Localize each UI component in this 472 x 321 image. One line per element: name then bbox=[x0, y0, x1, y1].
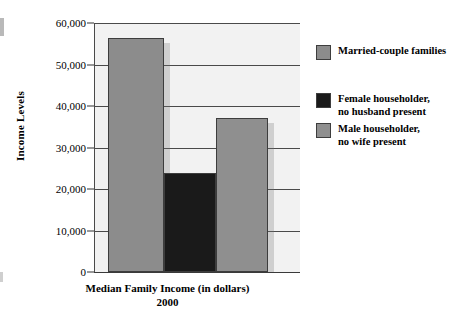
y-tick-label: 30,000 bbox=[56, 142, 86, 154]
legend-label-line2: no husband present bbox=[338, 105, 430, 118]
y-axis-ticks: 60,00050,00040,00030,00020,00010,0000 bbox=[22, 0, 94, 321]
legend-item[interactable]: Male householder,no wife present bbox=[316, 122, 420, 148]
x-axis-caption-line2: 2000 bbox=[60, 296, 275, 310]
legend-label-line2: no wife present bbox=[338, 135, 420, 148]
bar bbox=[216, 118, 268, 272]
legend-item[interactable]: Married-couple families bbox=[316, 44, 446, 60]
y-tick-label: 60,000 bbox=[56, 17, 86, 29]
legend-swatch-icon bbox=[316, 93, 331, 108]
legend-label-line1: Male householder, bbox=[338, 123, 420, 134]
y-tick-mark bbox=[87, 106, 94, 107]
bar bbox=[108, 38, 164, 272]
legend-label: Male householder,no wife present bbox=[338, 122, 420, 148]
gridline bbox=[94, 272, 300, 273]
y-tick-label: 20,000 bbox=[56, 183, 86, 195]
y-tick-label: 40,000 bbox=[56, 100, 86, 112]
y-tick-mark bbox=[87, 230, 94, 231]
gridline bbox=[94, 23, 300, 24]
y-tick-mark bbox=[87, 272, 94, 273]
y-tick-label: 50,000 bbox=[56, 59, 86, 71]
x-axis-caption: Median Family Income (in dollars) 2000 bbox=[60, 282, 275, 310]
bar-shadow bbox=[268, 123, 274, 272]
legend-item[interactable]: Female householder,no husband present bbox=[316, 92, 430, 118]
bar-chart-figure: Income Levels 60,00050,00040,00030,00020… bbox=[0, 0, 472, 321]
left-edge-artifact bbox=[0, 18, 4, 36]
bar bbox=[164, 173, 216, 272]
y-tick-mark bbox=[87, 147, 94, 148]
legend-label-line1: Married-couple families bbox=[338, 45, 446, 56]
y-tick-mark bbox=[87, 23, 94, 24]
legend-swatch-icon bbox=[316, 45, 331, 60]
y-tick-mark bbox=[87, 64, 94, 65]
y-tick-mark bbox=[87, 189, 94, 190]
legend-swatch-icon bbox=[316, 123, 331, 138]
y-tick-label: 10,000 bbox=[56, 225, 86, 237]
legend-label: Married-couple families bbox=[338, 44, 446, 57]
legend-label: Female householder,no husband present bbox=[338, 92, 430, 118]
legend-label-line1: Female householder, bbox=[338, 93, 430, 104]
y-tick-label: 0 bbox=[81, 266, 87, 278]
x-axis-caption-line1: Median Family Income (in dollars) bbox=[86, 282, 250, 294]
left-edge-artifact-lower bbox=[0, 272, 3, 282]
